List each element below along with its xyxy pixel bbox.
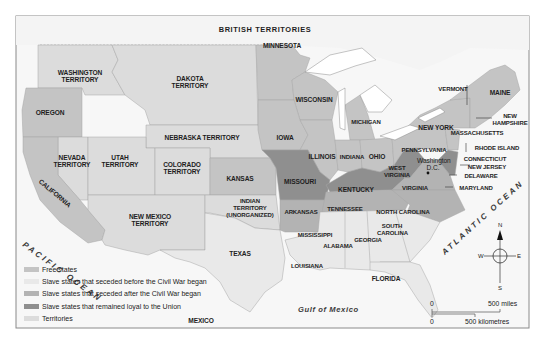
label-west-virginia: WEST VIRGINIA xyxy=(382,165,412,179)
legend-item-free-states: Free states xyxy=(24,263,207,275)
label-minnesota: MINNESOTA xyxy=(263,42,301,49)
legend-label: Slave states that remained loyal to the … xyxy=(42,303,181,310)
label-georgia: GEORGIA xyxy=(354,237,382,244)
label-new-york: NEW YORK xyxy=(418,124,453,131)
label-pennsylvania: PENNSYLVANIA xyxy=(402,147,447,154)
legend-label: Territories xyxy=(42,315,73,322)
label-new-hampshire: NEW HAMPSHIRE xyxy=(490,113,530,127)
legend-label: Free states xyxy=(42,266,77,273)
label-south-carolina: SOUTH CAROLINA xyxy=(377,223,407,237)
label-new-jersey: NEW JERSEY xyxy=(468,164,506,171)
label-oregon: OREGON xyxy=(36,109,65,116)
legend-swatch xyxy=(24,291,39,296)
label-vermont: VERMONT xyxy=(438,86,467,93)
label-british-territories: BRITISH TERRITORIES xyxy=(219,26,312,33)
label-indian-territory: INDIAN TERRITORY (UNORGANIZED) xyxy=(225,198,275,219)
label-wisconsin: WISCONSIN xyxy=(295,96,332,103)
label-ohio: OHIO xyxy=(369,153,385,160)
label-texas: TEXAS xyxy=(229,250,250,257)
legend-label: Slave states that seceded after the Civi… xyxy=(42,290,201,297)
label-nevada-territory: NEVADA TERRITORY xyxy=(52,154,92,168)
label-maryland: MARYLAND xyxy=(459,185,492,192)
label-tennessee: TENNESSEE xyxy=(327,206,362,213)
label-kentucky: KENTUCKY xyxy=(338,186,374,193)
label-maine: MAINE xyxy=(490,89,511,96)
label-utah-territory: UTAH TERRITORY xyxy=(100,154,140,168)
label-massachusetts: MASSACHUSETTS xyxy=(451,130,504,137)
label-arkansas: ARKANSAS xyxy=(284,209,317,216)
legend-item-territories: Territories xyxy=(24,312,207,324)
legend-swatch xyxy=(24,279,39,284)
label-louisiana: LOUISIANA xyxy=(291,263,323,270)
compass-e: E xyxy=(517,253,521,259)
scale-zero-bottom: 0 xyxy=(430,318,434,325)
label-new-mexico-territory: NEW MEXICO TERRITORY xyxy=(120,213,180,227)
compass-w: W xyxy=(478,253,484,259)
scale-zero-top: 0 xyxy=(430,300,434,307)
legend-item-seceded-after: Slave states that seceded after the Civi… xyxy=(24,288,207,300)
compass-n: N xyxy=(498,222,502,228)
label-michigan: MICHIGAN xyxy=(351,119,381,126)
legend: Free states Slave states that seceded be… xyxy=(24,263,207,324)
compass-s: S xyxy=(498,285,502,291)
label-iowa: IOWA xyxy=(276,134,293,141)
label-washington-dc: Washington D.C. xyxy=(417,157,449,171)
label-alabama: ALABAMA xyxy=(323,243,353,250)
washington-dc-marker xyxy=(427,172,430,175)
label-delaware: DELAWARE xyxy=(464,173,497,180)
label-gulf-of-mexico: Gulf of Mexico xyxy=(298,305,359,314)
label-virginia: VIRGINIA xyxy=(402,185,428,192)
legend-item-seceded-before: Slave states that seceded before the Civ… xyxy=(24,275,207,287)
label-washington-territory: WASHINGTON TERRITORY xyxy=(55,69,105,83)
label-north-carolina: NORTH CAROLINA xyxy=(376,209,429,216)
scale-km: 500 kilometres xyxy=(465,318,509,325)
label-dakota-territory: DAKOTA TERRITORY xyxy=(170,75,210,89)
label-connecticut: CONNECTICUT xyxy=(464,156,507,163)
legend-swatch xyxy=(24,316,39,321)
label-kansas: KANSAS xyxy=(226,175,253,182)
label-rhode-island: RHODE ISLAND xyxy=(475,145,519,152)
legend-swatch xyxy=(24,267,39,272)
legend-swatch xyxy=(24,304,39,309)
label-mississippi: MISSISSIPPI xyxy=(298,232,333,239)
label-florida: FLORIDA xyxy=(372,275,401,282)
label-missouri: MISSOURI xyxy=(284,178,316,185)
label-nebraska-territory: NEBRASKA TERRITORY xyxy=(165,134,240,141)
legend-item-loyal-slave-states: Slave states that remained loyal to the … xyxy=(24,300,207,312)
label-illinois: ILLINOIS xyxy=(308,153,335,160)
scale-miles: 500 miles xyxy=(488,300,517,307)
label-indiana: INDIANA xyxy=(340,154,364,161)
legend-label: Slave states that seceded before the Civ… xyxy=(42,278,207,285)
label-colorado-territory: COLORADO TERRITORY xyxy=(162,161,202,175)
